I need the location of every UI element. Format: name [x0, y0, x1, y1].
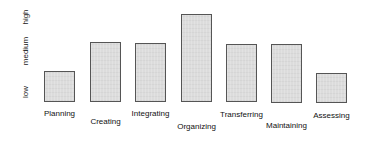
bar-planning [44, 71, 75, 102]
y-axis-label-low: low [21, 72, 31, 112]
bar-transferring [226, 44, 257, 102]
x-axis-label-maintaining: Maintaining [257, 121, 317, 131]
bar-integrating [135, 43, 166, 102]
bar-assessing [316, 73, 347, 103]
x-axis-label-integrating: Integrating [121, 109, 181, 119]
bar-organizing [181, 14, 212, 102]
y-axis-label-medium: medium [21, 31, 31, 71]
bar-maintaining [271, 44, 302, 103]
x-axis-label-assessing: Assessing [302, 111, 362, 121]
bar-chart: high medium low PlanningCreatingIntegrat… [0, 0, 367, 141]
bar-creating [90, 42, 121, 102]
x-axis-label-transferring: Transferring [212, 110, 272, 120]
x-axis-label-organizing: Organizing [167, 122, 227, 132]
